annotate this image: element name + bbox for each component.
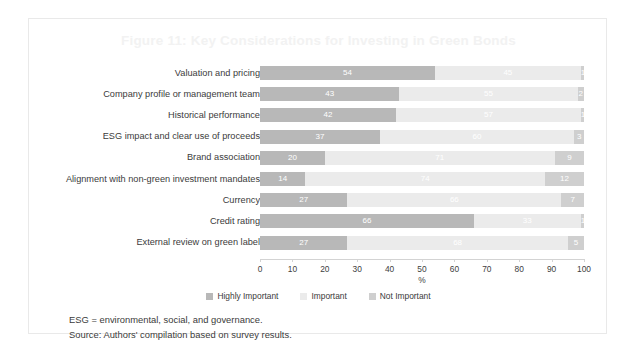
axis-tick-mark bbox=[260, 259, 261, 262]
bar-value-label: 74 bbox=[305, 172, 545, 186]
stacked-bar: 42571 bbox=[260, 108, 584, 122]
bar-segment: 57 bbox=[396, 108, 581, 122]
bar-segment: 42 bbox=[260, 108, 396, 122]
bar-value-label: 54 bbox=[260, 66, 435, 80]
legend-label: Not Important bbox=[380, 291, 431, 301]
bar-segment: 60 bbox=[380, 130, 574, 144]
axis-tick-label: 50 bbox=[417, 264, 426, 274]
chart-row: External review on green label27685 bbox=[29, 233, 608, 254]
bar-segment: 20 bbox=[260, 151, 325, 165]
bar-value-label: 37 bbox=[260, 130, 380, 144]
legend-item[interactable]: Not Important bbox=[369, 291, 431, 301]
bar-segment: 55 bbox=[399, 87, 577, 101]
figure-panel: Figure 11: Key Considerations for Invest… bbox=[28, 18, 607, 334]
chart-row: Historical performance42571 bbox=[29, 105, 608, 126]
bar-value-label: 60 bbox=[380, 130, 574, 144]
chart-row: Currency27667 bbox=[29, 190, 608, 211]
stacked-bar: 66331 bbox=[260, 214, 584, 228]
bar-segment: 7 bbox=[561, 193, 584, 207]
bar-segment: 1 bbox=[581, 66, 584, 80]
bar-value-label: 7 bbox=[561, 193, 584, 207]
bar-segment: 71 bbox=[325, 151, 555, 165]
chart-title: Figure 11: Key Considerations for Invest… bbox=[29, 33, 608, 48]
bar-value-label: 2 bbox=[578, 87, 584, 101]
category-label: External review on green label bbox=[136, 239, 260, 248]
bar-value-label: 71 bbox=[325, 151, 555, 165]
chart-row: Brand association20719 bbox=[29, 148, 608, 169]
bar-value-label: 1 bbox=[581, 108, 584, 122]
bar-segment: 66 bbox=[260, 214, 474, 228]
axis-tick-label: 60 bbox=[450, 264, 459, 274]
note-line: ESG = environmental, social, and governa… bbox=[69, 312, 292, 327]
axis-tick-mark bbox=[584, 259, 585, 262]
legend-item[interactable]: Highly Important bbox=[206, 291, 278, 301]
bar-segment: 3 bbox=[574, 130, 584, 144]
axis-tick-label: 10 bbox=[288, 264, 297, 274]
bar-value-label: 55 bbox=[399, 87, 577, 101]
stacked-bar: 43552 bbox=[260, 87, 584, 101]
bar-segment: 37 bbox=[260, 130, 380, 144]
category-label: Historical performance bbox=[168, 111, 260, 120]
bar-segment: 27 bbox=[260, 193, 347, 207]
axis-tick-label: 0 bbox=[258, 264, 263, 274]
x-axis: 0102030405060708090100 bbox=[260, 259, 584, 260]
bar-segment: 14 bbox=[260, 172, 305, 186]
axis-tick-mark bbox=[292, 259, 293, 262]
bar-value-label: 5 bbox=[568, 236, 584, 250]
category-label: Alignment with non-green investment mand… bbox=[66, 175, 260, 184]
stacked-bar: 27685 bbox=[260, 236, 584, 250]
stacked-bar: 20719 bbox=[260, 151, 584, 165]
bar-segment: 54 bbox=[260, 66, 435, 80]
axis-tick-mark bbox=[357, 259, 358, 262]
axis-tick-mark bbox=[487, 259, 488, 262]
axis-tick-mark bbox=[325, 259, 326, 262]
bar-value-label: 27 bbox=[260, 236, 347, 250]
legend-item[interactable]: Important bbox=[300, 291, 346, 301]
bar-value-label: 68 bbox=[347, 236, 567, 250]
legend-label: Important bbox=[311, 291, 346, 301]
bar-value-label: 57 bbox=[396, 108, 581, 122]
bar-value-label: 45 bbox=[435, 66, 581, 80]
bar-value-label: 1 bbox=[581, 214, 584, 228]
stacked-bar: 54451 bbox=[260, 66, 584, 80]
bar-value-label: 14 bbox=[260, 172, 305, 186]
legend-swatch-icon bbox=[369, 293, 376, 300]
bar-segment: 45 bbox=[435, 66, 581, 80]
bar-segment: 1 bbox=[581, 108, 584, 122]
bar-segment: 2 bbox=[578, 87, 584, 101]
bar-segment: 9 bbox=[555, 151, 584, 165]
stacked-bar: 147412 bbox=[260, 172, 584, 186]
stacked-bar: 37603 bbox=[260, 130, 584, 144]
axis-tick-label: 100 bbox=[577, 264, 591, 274]
bar-value-label: 1 bbox=[581, 66, 584, 80]
note-line: Source: Authors' compilation based on su… bbox=[69, 327, 292, 342]
figure-notes: ESG = environmental, social, and governa… bbox=[69, 312, 292, 342]
bar-value-label: 20 bbox=[260, 151, 325, 165]
category-label: ESG impact and clear use of proceeds bbox=[103, 133, 260, 142]
bar-value-label: 9 bbox=[555, 151, 584, 165]
axis-tick-label: 20 bbox=[320, 264, 329, 274]
axis-tick-label: 80 bbox=[515, 264, 524, 274]
bar-segment: 66 bbox=[347, 193, 561, 207]
axis-tick-label: 40 bbox=[385, 264, 394, 274]
category-label: Currency bbox=[223, 196, 260, 205]
axis-tick-mark bbox=[390, 259, 391, 262]
legend-swatch-icon bbox=[206, 293, 213, 300]
bar-segment: 1 bbox=[581, 214, 584, 228]
axis-tick-label: 70 bbox=[482, 264, 491, 274]
category-label: Company profile or management team bbox=[103, 90, 260, 99]
bar-segment: 74 bbox=[305, 172, 545, 186]
chart-row: ESG impact and clear use of proceeds3760… bbox=[29, 127, 608, 148]
chart-legend: Highly ImportantImportantNot Important bbox=[29, 291, 608, 301]
plot-area: Valuation and pricing54451Company profil… bbox=[29, 63, 608, 259]
axis-tick-mark bbox=[552, 259, 553, 262]
chart-row: Valuation and pricing54451 bbox=[29, 63, 608, 84]
axis-tick-label: 30 bbox=[353, 264, 362, 274]
axis-tick-label: 90 bbox=[547, 264, 556, 274]
bar-value-label: 3 bbox=[574, 130, 584, 144]
bar-segment: 43 bbox=[260, 87, 399, 101]
chart-row: Company profile or management team43552 bbox=[29, 84, 608, 105]
bar-segment: 12 bbox=[545, 172, 584, 186]
category-label: Credit rating bbox=[210, 217, 260, 226]
chart-row: Credit rating66331 bbox=[29, 211, 608, 232]
